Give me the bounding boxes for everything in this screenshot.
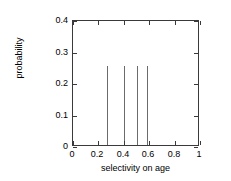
- y-tick-mark: [73, 116, 77, 117]
- x-tick-mark: [200, 141, 201, 145]
- y-tick-mark: [194, 84, 198, 85]
- y-tick-label: 0.2: [28, 78, 68, 88]
- y-tick-mark: [194, 147, 198, 148]
- y-tick-mark: [194, 53, 198, 54]
- y-tick-mark: [194, 21, 198, 22]
- x-axis-label: selectivity on age: [72, 163, 199, 173]
- x-tick-mark: [98, 141, 99, 145]
- y-tick-mark: [73, 53, 77, 54]
- x-tick-mark: [98, 21, 99, 25]
- x-tick-mark: [175, 141, 176, 145]
- x-tick-mark: [124, 21, 125, 25]
- x-tick-mark: [200, 21, 201, 25]
- x-tick-mark: [73, 21, 74, 25]
- x-tick-label: 1: [179, 149, 219, 159]
- y-tick-label: 0.1: [28, 110, 68, 120]
- y-axis-label: probability: [14, 13, 24, 103]
- x-tick-mark: [73, 141, 74, 145]
- impulse-line: [147, 66, 148, 145]
- y-tick-label: 0.3: [28, 47, 68, 57]
- x-tick-mark: [149, 141, 150, 145]
- impulse-line: [124, 66, 125, 145]
- chart-figure: probability selectivity on age 00.10.20.…: [0, 0, 231, 181]
- y-tick-mark: [73, 147, 77, 148]
- impulse-line: [137, 66, 138, 145]
- y-tick-mark: [194, 116, 198, 117]
- x-tick-mark: [149, 21, 150, 25]
- y-tick-mark: [73, 84, 77, 85]
- plot-area: [73, 21, 198, 145]
- plot-frame: [72, 20, 199, 146]
- x-tick-mark: [175, 21, 176, 25]
- impulse-line: [107, 66, 108, 145]
- x-tick-mark: [124, 141, 125, 145]
- y-tick-label: 0.4: [28, 15, 68, 25]
